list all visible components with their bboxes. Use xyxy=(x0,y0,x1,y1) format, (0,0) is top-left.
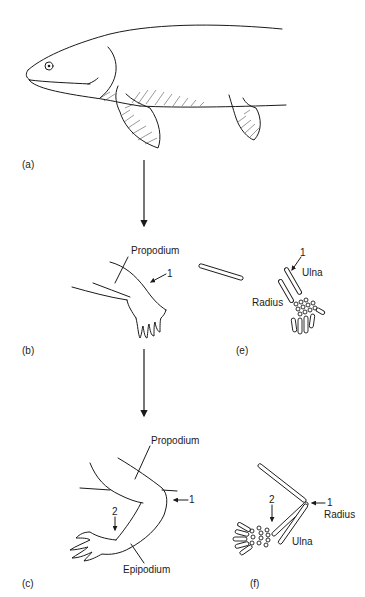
fish-gill-cover xyxy=(100,47,116,98)
epipodium-leader-c xyxy=(131,544,144,563)
fish-back-outline xyxy=(28,25,282,70)
fish-gill-slit xyxy=(88,78,98,84)
limb-c-hand xyxy=(70,532,130,561)
fish-illustration xyxy=(26,25,286,148)
panel-e-label: (e) xyxy=(236,345,248,356)
limb-b-wrist xyxy=(127,300,136,318)
early-limb-illustration xyxy=(72,257,166,338)
fish-snout xyxy=(26,70,30,80)
ulna-label-f: Ulna xyxy=(292,536,313,547)
panel-b-label: (b) xyxy=(22,345,34,356)
limb-c-cut-line xyxy=(80,488,110,490)
marker-1-label-b: 1 xyxy=(167,268,173,279)
limb-c-forearm-inner xyxy=(116,503,141,540)
limb-b-inner-outline xyxy=(93,283,130,297)
propodium-label-c: Propodium xyxy=(151,435,199,446)
humerus-bone-e xyxy=(198,263,243,280)
carpals-f xyxy=(250,526,270,547)
fish-mouth xyxy=(30,80,90,84)
fish-pupil xyxy=(48,65,51,68)
panel-f-label: (f) xyxy=(250,578,259,589)
panel-a-label: (a) xyxy=(22,159,34,170)
limb-b-upper-outline xyxy=(110,262,166,310)
marker-1-label-e: 1 xyxy=(300,247,306,258)
epipodium-label-c: Epipodium xyxy=(123,564,170,575)
humerus-bone-f xyxy=(257,463,307,503)
pelvic-fin xyxy=(229,95,260,140)
marker-1-arrow-b xyxy=(151,274,166,282)
carpals-e xyxy=(294,298,317,316)
radius-label-f: Radius xyxy=(324,509,355,520)
limb-b-hand xyxy=(136,310,166,338)
pelvic-fin-hatching xyxy=(238,110,259,137)
limb-b-lower-outline xyxy=(72,287,127,300)
fish-belly xyxy=(140,105,286,107)
marker-1-label-c: 1 xyxy=(189,494,195,505)
radius-label-e: Radius xyxy=(252,297,283,308)
panel-c-label: (c) xyxy=(22,578,34,589)
marker-1-label-f: 1 xyxy=(327,497,333,508)
marker-2-label-c: 2 xyxy=(112,506,118,517)
propodium-label-b: Propodium xyxy=(131,245,179,256)
bent-limb-illustration xyxy=(70,446,188,563)
marker-1-arrow-e xyxy=(292,257,301,270)
evolution-diagram: (a) Propodium 1 (b) xyxy=(0,0,365,597)
ulna-label-e: Ulna xyxy=(302,267,323,278)
digits-f xyxy=(233,522,253,556)
marker-2-label-f: 2 xyxy=(269,494,275,505)
